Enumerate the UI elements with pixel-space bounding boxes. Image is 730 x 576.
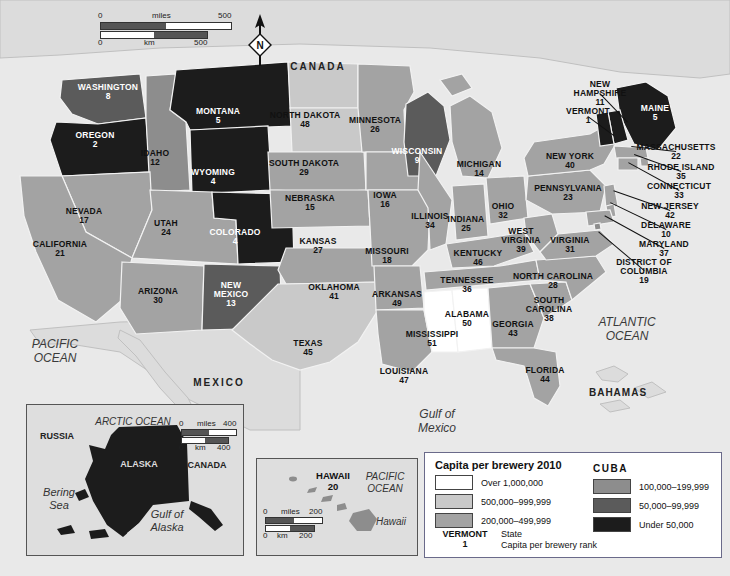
state-connecticut (618, 158, 638, 170)
alaska-label-bering-sea: BeringSea (43, 486, 75, 511)
scale-miles-max: 500 (218, 11, 231, 20)
state-south-dakota (290, 108, 362, 152)
legend-swatch (435, 475, 473, 490)
state-pennsylvania (526, 170, 606, 214)
hawaii-scale-km-min: 0 (263, 531, 267, 540)
ocean-label-pacific: PACIFICOCEAN (32, 338, 78, 366)
state-washington (60, 74, 146, 124)
hawaii-inset: HAWAII 20 PACIFICOCEAN Hawaii 0 miles 20… (256, 458, 418, 556)
brewery-map: .st{stroke:#f2f2f2;stroke-width:1.2;} .w… (0, 0, 730, 576)
legend-swatch (593, 517, 631, 532)
state-arizona (120, 262, 204, 334)
scale-miles-bar (100, 22, 232, 30)
hawaii-scale-km-max: 200 (299, 531, 312, 540)
state-arkansas (374, 266, 424, 310)
legend-label-cuba: CUBA (593, 463, 628, 474)
state-oregon (50, 118, 150, 176)
state-florida (492, 348, 560, 406)
main-scale-bar: 0 miles 500 0 km 500 (100, 22, 232, 39)
legend-swatch-label: 100,000–199,999 (639, 482, 709, 492)
state-kansas (270, 190, 370, 228)
legend-sample-state-name: VERMONT (443, 529, 488, 539)
country-label-bahamas: BAHAMAS (589, 387, 647, 398)
alaska-scale-km-max: 400 (217, 443, 230, 452)
alaska-inset: ARCTIC OCEAN RUSSIA CANADA ALASKA Bering… (26, 404, 244, 556)
scale-km-max: 500 (194, 38, 207, 47)
legend-swatch (593, 498, 631, 513)
legend-swatch (593, 479, 631, 494)
country-label-mexico: MEXICO (193, 377, 244, 388)
legend-row: Under 50,000 (593, 517, 694, 532)
hawaii-label-pacific-ocean: PACIFICOCEAN (366, 471, 405, 494)
state-michigan (440, 74, 502, 178)
hawaii-scale-bar: 0 miles 200 0 km 200 (265, 517, 323, 532)
legend-swatch-label: 500,000–999,999 (481, 497, 551, 507)
legend-title: Capita per brewery 2010 (435, 459, 562, 471)
alaska-label-alaska: ALASKA (120, 459, 158, 469)
alaska-scale-miles-max: 400 (223, 419, 236, 428)
svg-text:N: N (256, 40, 263, 51)
legend-row: 500,000–999,999 (435, 494, 551, 509)
legend-sample-state-rank: 1 (462, 539, 467, 549)
country-label-canada: CANADA (290, 61, 345, 72)
legend-swatch (435, 513, 473, 528)
alaska-scale-miles-min: 0 (179, 419, 183, 428)
alaska-label-canada: CANADA (188, 460, 227, 470)
state-alabama (452, 288, 492, 352)
legend-row: 50,000–99,999 (593, 498, 699, 513)
hawaii-scale-km-label: km (277, 531, 288, 540)
alaska-scale-miles-bar (181, 429, 237, 436)
legend-sample-state: VERMONT 1 (435, 529, 495, 550)
alaska-scale-km-label: km (195, 443, 206, 452)
scale-km-min: 0 (98, 38, 102, 47)
legend-swatch-label: Over 1,000,000 (481, 478, 543, 488)
legend-row: 100,000–199,999 (593, 479, 709, 494)
state-oklahoma (278, 248, 376, 284)
scale-miles-min: 0 (98, 11, 102, 20)
legend-sample-description: StateCapita per brewery rank (501, 529, 597, 552)
hawaii-label-name: HAWAII (316, 470, 350, 481)
state-louisiana (376, 310, 432, 372)
alaska-label-arctic-ocean: ARCTIC OCEAN (95, 416, 171, 427)
legend-row: 200,000–499,999 (435, 513, 551, 528)
legend-swatch (435, 494, 473, 509)
alaska-label-russia: RUSSIA (40, 431, 74, 441)
legend-swatch-label: 50,000–99,999 (639, 501, 699, 511)
state-district-of-columbia (594, 223, 601, 230)
state-montana (170, 62, 292, 130)
state-wyoming (190, 126, 272, 194)
hawaii-scale-miles-max: 200 (309, 507, 322, 516)
hawaii-label-island: Hawaii (376, 516, 406, 527)
hawaii-scale-miles-min: 0 (263, 507, 267, 516)
ocean-label-atlantic: ATLANTICOCEAN (598, 316, 655, 344)
state-nebraska (268, 152, 366, 192)
ocean-label-gulf-of-mexico: Gulf ofMexico (418, 408, 456, 436)
state-indiana (452, 184, 488, 240)
hawaii-scale-miles-bar (265, 517, 323, 524)
map-legend: Capita per brewery 2010 CUBA Over 1,000,… (424, 452, 722, 558)
alaska-scale-miles-label: miles (197, 419, 216, 428)
state-missouri (368, 190, 430, 266)
hawaii-scale-miles-label: miles (281, 507, 300, 516)
scale-km-label: km (144, 38, 155, 47)
legend-swatch-label: Under 50,000 (639, 520, 694, 530)
scale-miles-label: miles (152, 11, 171, 20)
hawaii-label-rank: 20 (328, 481, 339, 492)
alaska-scale-km-min: 0 (179, 443, 183, 452)
compass-rose: N (242, 12, 278, 72)
alaska-label-gulf-of-alaska: Gulf ofAlaska (150, 508, 183, 533)
legend-swatch-label: 200,000–499,999 (481, 516, 551, 526)
alaska-scale-bar: 0 miles 400 0 km 400 (181, 429, 237, 444)
legend-row: Over 1,000,000 (435, 475, 543, 490)
state-ohio (486, 176, 528, 224)
